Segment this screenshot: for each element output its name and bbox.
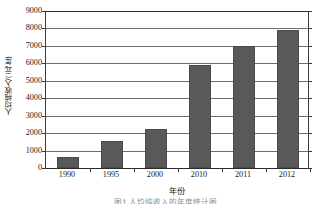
x-tick-label-2000: 2000 xyxy=(147,171,163,179)
y-axis-tick-labels: 0100020003000400050006000700080009000 xyxy=(16,11,44,168)
x-tick-mark-2012 xyxy=(310,168,311,172)
bar-2010 xyxy=(189,65,211,168)
x-tick-label-1995: 1995 xyxy=(103,171,119,179)
plot-area xyxy=(45,11,309,168)
y-tick-label-7000: 7000 xyxy=(26,42,42,50)
x-tick-label-2012: 2012 xyxy=(279,171,295,179)
y-axis-title: 人均纯收入/(元/年) xyxy=(0,0,16,172)
x-tick-label-1990: 1990 xyxy=(59,171,75,179)
bar-1995 xyxy=(101,141,123,168)
y-tick-label-9000: 9000 xyxy=(26,7,42,15)
y-tick-mark-right-7000 xyxy=(308,46,312,47)
bar-2011 xyxy=(233,46,255,168)
figure-caption: 图1 人均纯收入的年度统计图 xyxy=(0,196,331,204)
bars-group xyxy=(46,11,308,168)
y-tick-label-8000: 8000 xyxy=(26,24,42,32)
y-tick-mark-right-8000 xyxy=(308,28,312,29)
y-tick-label-1000: 1000 xyxy=(26,146,42,154)
y-tick-mark-right-6000 xyxy=(308,63,312,64)
y-tick-mark-right-9000 xyxy=(308,11,312,12)
y-tick-label-6000: 6000 xyxy=(26,59,42,67)
y-tick-label-3000: 3000 xyxy=(26,112,42,120)
y-tick-label-5000: 5000 xyxy=(26,77,42,85)
x-axis-title: 年份 xyxy=(45,184,309,196)
y-tick-mark-right-3000 xyxy=(308,116,312,117)
y-axis-title-label: 人均纯收入/(元/年) xyxy=(3,56,14,116)
bar-2000 xyxy=(145,129,167,168)
x-axis-tick-labels: 199019952000201020112012 xyxy=(45,171,309,184)
y-tick-mark-right-1000 xyxy=(308,151,312,152)
gridline-0 xyxy=(46,168,308,169)
x-tick-label-2010: 2010 xyxy=(191,171,207,179)
y-tick-mark-right-2000 xyxy=(308,133,312,134)
bar-1990 xyxy=(57,157,79,168)
y-tick-mark-0 xyxy=(42,168,46,169)
y-tick-label-2000: 2000 xyxy=(26,129,42,137)
bar-chart-figure: 人均纯收入/(元/年) 0100020003000400050006000700… xyxy=(0,0,331,204)
x-tick-label-2011: 2011 xyxy=(235,171,251,179)
y-tick-label-4000: 4000 xyxy=(26,94,42,102)
y-tick-mark-right-5000 xyxy=(308,81,312,82)
bar-2012 xyxy=(277,30,299,168)
y-tick-mark-right-4000 xyxy=(308,98,312,99)
